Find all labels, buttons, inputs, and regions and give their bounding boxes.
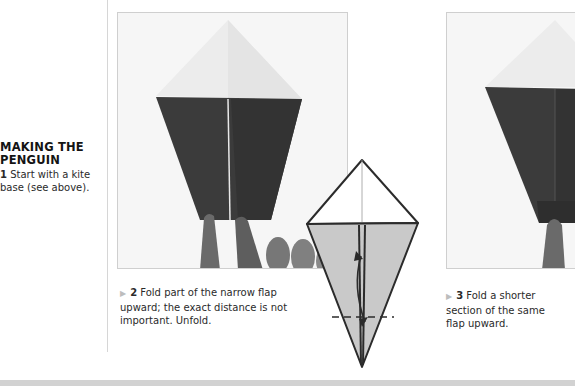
step-3-photo: [446, 12, 575, 269]
step-number: 3: [456, 290, 463, 301]
step-2-caption: ▶2 Fold part of the narrow flap upward; …: [120, 286, 320, 328]
step-3-line-1: Fold a shorter: [466, 290, 535, 301]
step-1-line-1: Start with a kite: [10, 169, 90, 180]
section-heading: MAKING THE PENGUIN: [0, 141, 104, 167]
step-3-line-3: flap upward.: [446, 318, 508, 329]
step-1-text: 1 Start with a kite base (see above).: [0, 168, 104, 194]
kite-fold-diagram: [300, 155, 430, 379]
section-intro: MAKING THE PENGUIN 1 Start with a kite b…: [0, 141, 104, 194]
triangle-marker-icon: ▶: [120, 289, 126, 298]
triangle-marker-icon: ▶: [446, 292, 452, 301]
step-2-line-1: Fold part of the narrow flap: [140, 287, 276, 298]
step-number: 2: [130, 287, 137, 298]
step-2-line-3: important. Unfold.: [120, 315, 211, 326]
heading-line-2: PENGUIN: [0, 154, 104, 167]
step-number: 1: [0, 169, 7, 180]
step-1-line-2: base (see above).: [0, 182, 89, 193]
step-3-caption: ▶3 Fold a shorter section of the same fl…: [446, 289, 575, 331]
page-bottom-band: [0, 380, 575, 386]
step-3-line-2: section of the same: [446, 305, 545, 316]
column-divider: [107, 0, 108, 352]
step-2-line-2: upward; the exact distance is not: [120, 302, 287, 313]
